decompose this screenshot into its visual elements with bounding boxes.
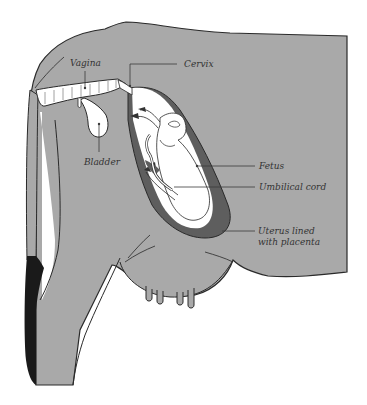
fetus-leader-dot xyxy=(196,165,198,167)
label-uterus-line2: with placenta xyxy=(258,237,320,247)
teat xyxy=(177,292,183,305)
label-vagina: Vagina xyxy=(70,58,101,68)
teat xyxy=(157,290,163,304)
cervix-leader-dot xyxy=(129,85,131,87)
teat xyxy=(188,288,194,308)
label-cervix: Cervix xyxy=(184,59,214,69)
urethra xyxy=(78,98,81,108)
label-fetus: Fetus xyxy=(259,161,284,171)
label-bladder: Bladder xyxy=(84,157,120,167)
label-umbilical-cord: Umbilical cord xyxy=(259,182,326,192)
vagina-leader-dot xyxy=(84,87,86,89)
udder xyxy=(120,262,232,297)
tail xyxy=(26,90,38,260)
bladder-leader-dot xyxy=(98,123,100,125)
label-uterus-line1: Uterus lined xyxy=(258,226,315,236)
cow-anatomy-diagram: Vagina Cervix Bladder Fetus Umbilical co… xyxy=(0,0,367,405)
